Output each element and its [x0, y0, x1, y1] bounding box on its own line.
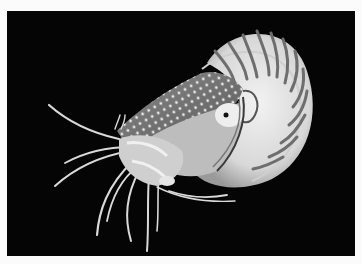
nautilus-illustration [7, 11, 355, 256]
nautilus-photo [7, 11, 355, 256]
photo-frame [0, 0, 362, 264]
